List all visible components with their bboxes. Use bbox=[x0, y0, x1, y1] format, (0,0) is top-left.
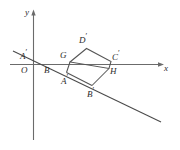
square-shape bbox=[70, 49, 111, 69]
y-axis-arrow-icon bbox=[31, 10, 35, 16]
point-label-a-prime-left: A′ bbox=[20, 49, 27, 61]
square-edge-g-to-a-prime bbox=[67, 62, 71, 73]
figure-canvas bbox=[0, 0, 180, 150]
point-label-a-prime: A′ bbox=[61, 74, 68, 86]
point-label-g: G bbox=[60, 51, 67, 60]
prime-mark-icon: ′ bbox=[67, 73, 69, 82]
geometry-figure: y x A′ O B G A′ D′ C′ H B′ bbox=[0, 0, 180, 150]
prime-mark-icon: ′ bbox=[118, 49, 120, 58]
prime-mark-icon: ′ bbox=[86, 32, 88, 41]
point-label-h: H bbox=[110, 67, 117, 76]
y-axis-label: y bbox=[25, 8, 29, 17]
point-label-c-prime: C′ bbox=[112, 50, 120, 62]
square-edge-b-prime-to-h bbox=[92, 69, 109, 86]
point-label-d-prime: D′ bbox=[79, 33, 87, 45]
point-label-b-prime: B′ bbox=[87, 87, 94, 99]
point-label-b: B bbox=[44, 66, 50, 75]
prime-mark-icon: ′ bbox=[93, 86, 95, 95]
x-axis-label: x bbox=[164, 64, 168, 73]
prime-mark-icon: ′ bbox=[26, 48, 28, 57]
point-label-o: O bbox=[21, 66, 28, 75]
